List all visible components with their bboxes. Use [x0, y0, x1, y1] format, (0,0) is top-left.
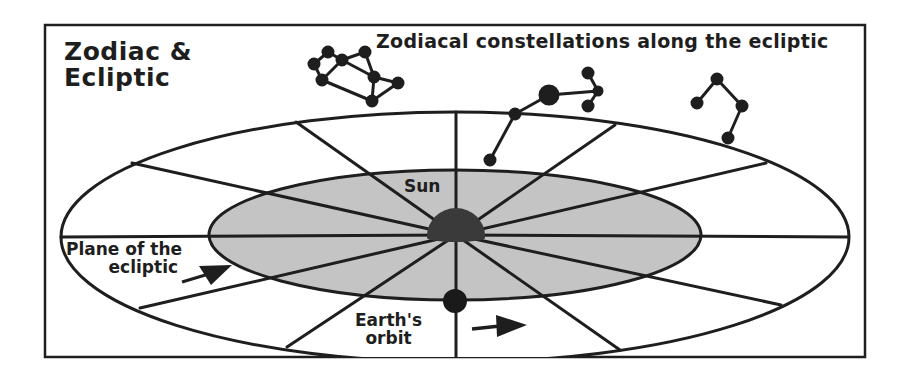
title-line-2: Ecliptic [64, 65, 192, 91]
earths-orbit-label: Earth's orbit [355, 312, 422, 348]
title-line-1: Zodiac & [64, 39, 192, 65]
sun-label: Sun [404, 178, 440, 196]
plane-of-ecliptic-label: Plane of the ecliptic [66, 241, 182, 277]
plane-label-line-2: ecliptic [66, 259, 182, 277]
earth-icon [443, 289, 467, 313]
diagram-title: Zodiac & Ecliptic [64, 39, 192, 92]
earth-label-line-2: orbit [355, 330, 422, 348]
constellations-caption: Zodiacal constellations along the eclipt… [376, 32, 829, 52]
